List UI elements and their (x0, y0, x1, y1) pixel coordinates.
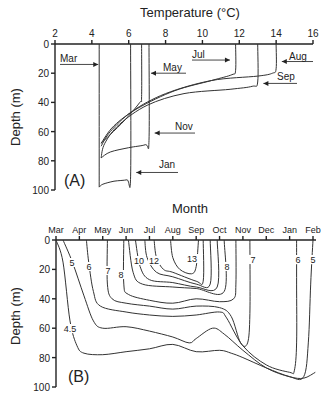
arrow-head (263, 81, 268, 86)
panel-a-label: (A) (64, 172, 85, 189)
arrow-head (136, 170, 141, 175)
contour-label-8-right: 8 (224, 262, 229, 272)
isotherm-7 (107, 240, 250, 346)
x-tick-label: Dec (258, 225, 275, 235)
label-aug: Aug (289, 51, 307, 62)
y-tick-label: 40 (39, 294, 51, 305)
x-tick-label: Jun (119, 225, 134, 235)
arrow-head (155, 131, 160, 136)
contour-label-10: 10 (134, 256, 144, 266)
arrow-head (282, 59, 287, 64)
y-tick-label: 20 (39, 264, 51, 275)
panel-b-x-ticks: MarAprMayJunJulAugSepOctNovDecJanFeb (48, 225, 321, 240)
contour-label-12: 12 (149, 256, 159, 266)
panel-a-y-title: Depth (m) (8, 88, 23, 146)
x-tick-label: Sep (188, 225, 204, 235)
profile-may (101, 44, 142, 143)
label-may: May (163, 62, 182, 73)
contour-label-6-right: 6 (295, 255, 300, 265)
figure: Temperature (°C) 246810121416 0204060801… (0, 0, 332, 403)
y-tick-label: 100 (33, 382, 50, 393)
panel-a-x-ticks: 246810121416 (52, 28, 319, 44)
x-tick-label: Mar (48, 225, 64, 235)
panel-a-profiles (99, 44, 276, 188)
x-tick-label: 10 (197, 28, 209, 39)
y-tick-label: 80 (38, 156, 50, 167)
x-tick-label: May (94, 225, 112, 235)
panel-b-y-ticks: 020406080100 (33, 235, 56, 393)
x-tick-label: Aug (165, 225, 181, 235)
isotherm-10b (135, 240, 218, 291)
x-tick-label: 6 (126, 28, 132, 39)
label-mar: Mar (60, 53, 78, 64)
x-tick-label: Feb (305, 225, 321, 235)
contour-label-5: 5 (69, 258, 74, 268)
arrow-head (93, 62, 98, 67)
label-jan: Jan (159, 159, 175, 170)
panel-b: Month MarAprMayJunJulAugSepOctNovDecJanF… (8, 201, 321, 393)
contour-label-8: 8 (118, 270, 123, 280)
label-nov: Nov (175, 121, 193, 132)
contour-labels: 4.5 5 6 7 8 10 12 13 8 7 6 5 (63, 254, 317, 334)
panel-a-y-ticks: 020406080100 (32, 39, 55, 196)
panel-b-label: (B) (68, 368, 89, 385)
x-tick-label: 2 (52, 28, 58, 39)
arrow-head (225, 58, 230, 63)
contour-label-7: 7 (105, 266, 110, 276)
y-tick-label: 20 (38, 68, 50, 79)
panel-b-isotherms (56, 240, 315, 380)
x-tick-label: 14 (271, 28, 283, 39)
panel-a-x-title: Temperature (°C) (140, 5, 240, 20)
panel-a-arrows (60, 58, 313, 175)
contour-label-4-5: 4.5 (64, 324, 77, 334)
x-tick-label: 12 (234, 28, 246, 39)
isotherm-4-5 (56, 240, 315, 379)
x-tick-label: Jan (282, 225, 297, 235)
panel-a: Temperature (°C) 246810121416 0204060801… (8, 5, 319, 196)
contour-label-7-right: 7 (250, 255, 255, 265)
label-jul: Jul (192, 49, 205, 60)
label-sep: Sep (277, 71, 295, 82)
panel-b-x-title: Month (172, 201, 208, 216)
y-tick-label: 0 (44, 235, 50, 246)
contour-label-13: 13 (187, 254, 197, 264)
y-tick-label: 60 (38, 127, 50, 138)
x-tick-label: Oct (213, 225, 228, 235)
x-tick-label: Jul (144, 225, 156, 235)
x-tick-label: Apr (72, 225, 86, 235)
panel-b-y-title: Depth (m) (8, 287, 23, 345)
x-tick-label: Nov (235, 225, 252, 235)
profile-jul (101, 44, 236, 143)
y-tick-label: 80 (39, 353, 51, 364)
x-tick-label: 4 (89, 28, 95, 39)
y-tick-label: 0 (43, 39, 49, 50)
y-tick-label: 100 (32, 185, 49, 196)
x-tick-label: 16 (307, 28, 319, 39)
contour-label-6: 6 (86, 262, 91, 272)
isotherm-8 (123, 240, 236, 303)
y-tick-label: 40 (38, 97, 50, 108)
x-tick-label: 8 (163, 28, 169, 39)
y-tick-label: 60 (39, 323, 51, 334)
contour-label-5-right: 5 (310, 255, 315, 265)
arrow-head (151, 71, 156, 76)
